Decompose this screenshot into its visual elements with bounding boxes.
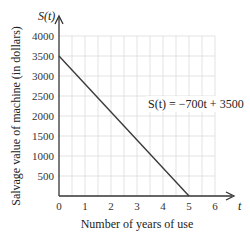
svg-text:3: 3	[134, 200, 140, 212]
svg-text:6: 6	[212, 200, 218, 212]
svg-text:1500: 1500	[32, 130, 55, 142]
y-axis-title: Salvage value of machine (in dollars)	[9, 26, 23, 206]
svg-text:1: 1	[82, 200, 88, 212]
y-tick-labels: 4000 3500 3000 2500 2000 1500 1000 500	[32, 30, 55, 182]
svg-text:3000: 3000	[32, 70, 55, 82]
equation-label: S(t) = −700t + 3500	[148, 97, 244, 111]
y-axis-symbol: S(t)	[38, 9, 55, 23]
svg-text:4: 4	[160, 200, 166, 212]
svg-text:2500: 2500	[32, 90, 55, 102]
grid	[59, 36, 215, 196]
x-axis-title: Number of years of use	[81, 217, 194, 231]
svg-text:1000: 1000	[32, 150, 55, 162]
svg-text:2: 2	[108, 200, 114, 212]
svg-text:4000: 4000	[32, 30, 55, 42]
svg-text:500: 500	[38, 170, 55, 182]
x-axis-symbol: t	[238, 199, 242, 213]
x-tick-labels: 0 1 2 3 4 5 6	[56, 200, 218, 212]
chart: 4000 3500 3000 2500 2000 1500 1000 500 0…	[0, 0, 250, 242]
svg-text:5: 5	[186, 200, 192, 212]
svg-text:0: 0	[56, 200, 62, 212]
svg-text:3500: 3500	[32, 50, 55, 62]
svg-text:2000: 2000	[32, 110, 55, 122]
